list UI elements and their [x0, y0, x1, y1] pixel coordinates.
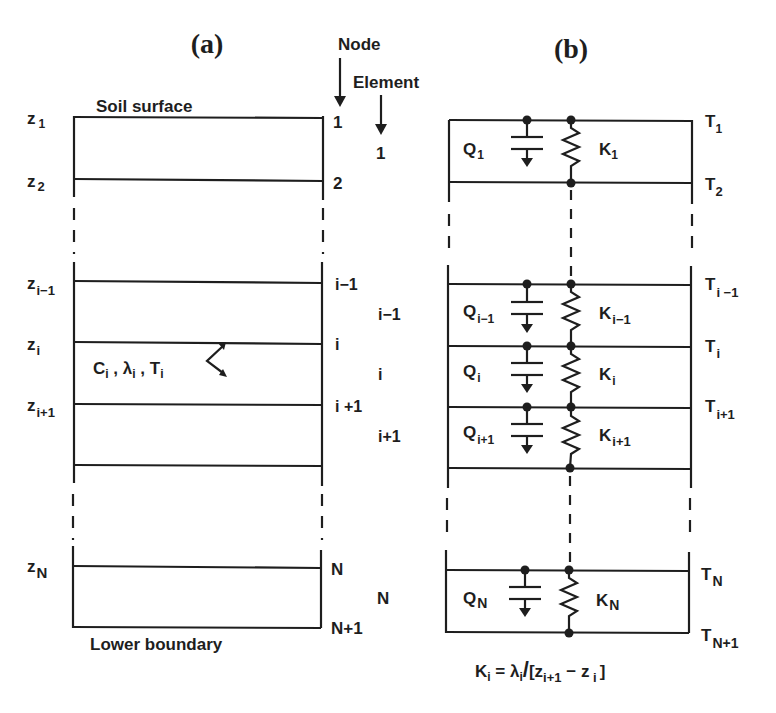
temp-label-TN+1: TN+1: [701, 626, 739, 651]
lower-boundary-label: Lower boundary: [90, 635, 223, 654]
node-line-1: [73, 117, 323, 118]
svg-text:Qi+1: Qi+1: [463, 423, 495, 447]
temp-label-T2: T2: [705, 175, 723, 199]
depth-label-zi: zi: [27, 335, 40, 358]
svg-text:Qi−1: Qi−1: [463, 302, 495, 326]
element-header: Element: [353, 73, 419, 92]
svg-text:zi+1: zi+1: [27, 396, 55, 420]
svg-text:z2: z2: [27, 172, 45, 194]
circuit-element-i+1: Qi+1 Ki+1: [463, 403, 631, 473]
node-line-i+2: [74, 465, 322, 466]
element-label-i: i: [378, 366, 382, 383]
element-pointer-arrows-icon: [207, 342, 227, 377]
svg-text:Ki−1: Ki−1: [599, 304, 631, 327]
svg-text:z1: z1: [27, 109, 46, 131]
capacitor-icon: [511, 346, 543, 393]
node-label-i-1: i−1: [335, 276, 358, 293]
svg-text:Ki: Ki: [599, 365, 616, 388]
node-header: Node: [338, 35, 381, 54]
panel-a-title: (a): [191, 28, 224, 59]
resistor-label-K1: K1: [599, 140, 618, 162]
svg-text:Qi: Qi: [463, 362, 481, 385]
node-line-N+1: [73, 627, 321, 628]
svg-text:Ki+1: Ki+1: [599, 426, 631, 449]
svg-text:zN: zN: [27, 557, 47, 581]
depth-label-zN: zN: [27, 557, 47, 581]
circuit-element-N: QN KN: [463, 566, 619, 638]
svg-text:zi−1: zi−1: [27, 274, 55, 298]
element-label-N: N: [377, 589, 389, 608]
resistor-icon: [563, 407, 579, 468]
temp-label-Ti+1: Ti+1: [705, 397, 735, 422]
depth-label-z1: z1: [27, 109, 46, 131]
soil-surface-label: Soil surface: [96, 97, 192, 116]
node-label-N: N: [331, 560, 343, 579]
capacitor-icon: [511, 284, 543, 333]
depth-label-z2: z2: [27, 172, 45, 194]
element-arrow-icon: [375, 124, 387, 135]
node-line-N: [73, 566, 321, 568]
svg-text:Ci , λi , Ti: Ci , λi , Ti: [93, 359, 164, 381]
node-label-2: 2: [333, 174, 342, 193]
node-label-1: 1: [333, 113, 342, 132]
temp-label-Ti: Ti: [705, 337, 720, 361]
resistor-icon: [561, 570, 577, 633]
node-arrow-icon: [334, 96, 346, 107]
resistor-icon: [563, 120, 579, 183]
node-line-i: [74, 342, 322, 344]
depth-label-zi+1: zi+1: [27, 396, 55, 420]
node-line-i-1: [74, 281, 322, 283]
depth-label-zi-1: zi−1: [27, 274, 55, 298]
node-label-i: i: [335, 336, 339, 353]
capacitor-icon: [511, 407, 543, 454]
element-label-i+1: i+1: [378, 428, 401, 445]
node-label-N+1: N+1: [331, 619, 363, 638]
capacitor-label-Q1: Q1: [463, 140, 484, 162]
circuit-element-i: Qi Ki: [463, 342, 616, 408]
circuit-element-1: Q1 K1: [463, 116, 618, 188]
circuit-element-i-1: Qi−1 Ki−1: [463, 280, 631, 347]
resistor-icon: [563, 284, 579, 346]
node-line-i+1: [74, 404, 322, 405]
soil-heat-flow-diagram: (a) Node Element Soil surface z1: [0, 0, 776, 713]
node-line-2: [74, 179, 323, 181]
element-label-i-1: i−1: [378, 306, 401, 323]
temp-label-TN: TN: [701, 565, 723, 589]
svg-text:zi: zi: [27, 335, 40, 358]
temp-label-Ti-1: Ti −1: [705, 275, 738, 300]
svg-text:QN: QN: [463, 589, 487, 611]
capacitor-icon: [509, 570, 541, 617]
node-label-i+1: i +1: [335, 398, 362, 415]
element-label-1: 1: [376, 144, 385, 163]
conductance-equation: Ki = λi/[zi+1 − z i]: [475, 657, 605, 685]
svg-text:KN: KN: [596, 591, 619, 613]
temp-label-T1: T1: [705, 112, 722, 136]
capacitor-icon: [511, 120, 543, 167]
panel-a: (a) Node Element Soil surface z1: [27, 28, 419, 654]
element-properties-label: Ci , λi , Ti: [93, 359, 164, 381]
resistor-icon: [563, 346, 579, 407]
panel-b-title: (b): [554, 33, 588, 64]
panel-b: (b): [446, 33, 739, 685]
